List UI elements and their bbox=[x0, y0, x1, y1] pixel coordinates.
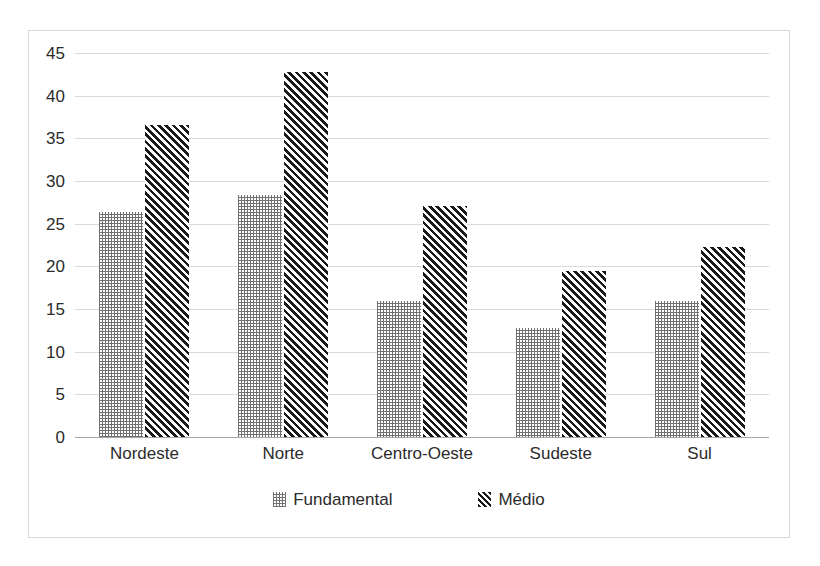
x-axis-tick-labels: NordesteNorteCentro-OesteSudesteSul bbox=[75, 445, 769, 475]
bar[interactable] bbox=[423, 206, 467, 437]
y-axis-label: 30 bbox=[46, 173, 65, 190]
x-axis-label: Centro-Oeste bbox=[371, 445, 473, 462]
bar-group bbox=[75, 53, 214, 437]
x-axis-label: Norte bbox=[262, 445, 304, 462]
y-axis-label: 35 bbox=[46, 130, 65, 147]
chart-frame: 051015202530354045 NordesteNorteCentro-O… bbox=[28, 30, 790, 538]
bar[interactable] bbox=[99, 212, 143, 437]
legend-entry[interactable]: Fundamental bbox=[273, 491, 392, 508]
legend-swatch-icon bbox=[273, 492, 286, 507]
bar[interactable] bbox=[284, 72, 328, 437]
y-axis-label: 15 bbox=[46, 301, 65, 318]
bar-series-layer bbox=[75, 53, 769, 437]
bar-group bbox=[353, 53, 492, 437]
legend-entry[interactable]: Médio bbox=[478, 491, 544, 508]
bar[interactable] bbox=[701, 247, 745, 437]
x-axis-label: Nordeste bbox=[110, 445, 179, 462]
y-axis-label: 10 bbox=[46, 343, 65, 360]
y-axis-label: 20 bbox=[46, 258, 65, 275]
y-axis-label: 25 bbox=[46, 215, 65, 232]
bar[interactable] bbox=[655, 301, 699, 437]
y-axis-label: 40 bbox=[46, 87, 65, 104]
axis-baseline bbox=[75, 437, 769, 438]
legend-label: Fundamental bbox=[293, 491, 392, 508]
bar[interactable] bbox=[145, 125, 189, 437]
plot-area: 051015202530354045 bbox=[75, 53, 769, 437]
bar-group bbox=[214, 53, 353, 437]
y-axis-label: 45 bbox=[46, 45, 65, 62]
x-axis-label: Sudeste bbox=[530, 445, 592, 462]
legend-label: Médio bbox=[498, 491, 544, 508]
bar[interactable] bbox=[238, 195, 282, 437]
x-axis-label: Sul bbox=[687, 445, 712, 462]
bar[interactable] bbox=[516, 328, 560, 437]
bar[interactable] bbox=[377, 301, 421, 437]
y-axis-label: 0 bbox=[56, 429, 65, 446]
bar-group bbox=[491, 53, 630, 437]
bar-group bbox=[630, 53, 769, 437]
chart-legend: FundamentalMédio bbox=[29, 491, 789, 508]
legend-swatch-icon bbox=[478, 492, 491, 507]
bar[interactable] bbox=[562, 271, 606, 437]
y-axis-label: 5 bbox=[56, 386, 65, 403]
